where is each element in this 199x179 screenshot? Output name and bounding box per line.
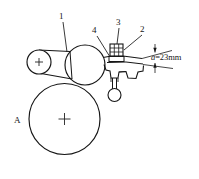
dimension-arrow-up <box>153 63 156 68</box>
callout-label-4: 4 <box>92 26 97 35</box>
callout-label-1: 1 <box>59 12 64 21</box>
callout-label-3: 3 <box>116 18 121 27</box>
large-drum-center-mark <box>59 113 71 125</box>
large-drum <box>29 84 100 155</box>
dimension-value: 23 <box>160 52 168 62</box>
part-label-A: A <box>14 116 21 125</box>
technical-diagram: 1 4 3 2 A a=23mm <box>0 0 199 179</box>
hatched-block <box>109 44 124 62</box>
pendulum-arm <box>108 78 121 102</box>
diagram-drawing-canvas <box>0 0 199 179</box>
callout-label-2: 2 <box>140 25 145 34</box>
clearance-dimension-label: a=23mm <box>151 53 181 62</box>
dimension-unit: mm <box>168 52 181 62</box>
